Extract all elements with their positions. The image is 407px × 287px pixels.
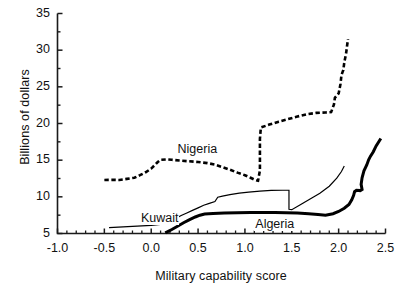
- y-axis-title: Billions of dollars: [15, 47, 33, 187]
- page-footer-fragment: [8, 277, 403, 287]
- x-tick-label: -0.5: [84, 241, 124, 255]
- y-axis-title-text: Billions of dollars: [18, 69, 32, 165]
- y-tick-label: 35: [20, 6, 50, 20]
- chart-ticks: [58, 14, 386, 234]
- x-tick-label: -1.0: [38, 241, 78, 255]
- y-tick-label: 10: [20, 189, 50, 203]
- series-label-nigeria: Nigeria: [177, 142, 219, 156]
- chart-figure: 5101520253035-1.0-0.50.00.51.01.52.02.5 …: [0, 0, 407, 287]
- series-label-algeria: Algeria: [254, 217, 295, 231]
- x-tick-label: 2.0: [319, 241, 359, 255]
- y-tick-label: 5: [20, 226, 50, 240]
- x-tick-label: 0.0: [131, 241, 171, 255]
- series-line-nigeria: [104, 39, 348, 181]
- x-tick-label: 0.5: [178, 241, 218, 255]
- x-tick-label: 1.0: [225, 241, 265, 255]
- chart-series-lines: [104, 39, 380, 233]
- x-tick-label: 2.5: [366, 241, 406, 255]
- series-label-kuwait: Kuwait: [140, 211, 180, 225]
- chart-axes: [58, 14, 386, 234]
- x-tick-label: 1.5: [272, 241, 312, 255]
